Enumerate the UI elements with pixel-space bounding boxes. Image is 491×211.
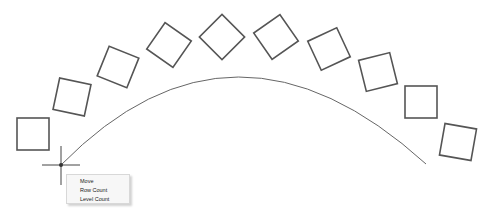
square-10[interactable]: [439, 123, 476, 160]
square-3[interactable]: [97, 46, 139, 88]
square-1[interactable]: [17, 118, 49, 150]
menu-item-level-count[interactable]: Level Count: [67, 195, 129, 204]
arrayed-squares: [17, 14, 477, 160]
square-7[interactable]: [308, 28, 351, 71]
square-8[interactable]: [359, 53, 398, 92]
square-4[interactable]: [147, 23, 192, 68]
menu-item-move[interactable]: Move: [67, 177, 129, 186]
grip-point[interactable]: [59, 163, 63, 167]
square-2[interactable]: [53, 78, 91, 116]
context-menu: Move Row Count Level Count: [66, 174, 130, 204]
square-5[interactable]: [199, 14, 244, 59]
square-6[interactable]: [254, 15, 299, 60]
menu-item-row-count[interactable]: Row Count: [67, 186, 129, 195]
square-9[interactable]: [405, 86, 437, 118]
